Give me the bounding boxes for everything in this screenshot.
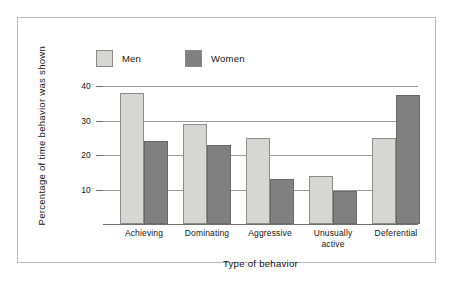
bar-men-achieving[interactable]	[120, 93, 144, 224]
tick-mark-40	[96, 86, 103, 87]
bar-women-deferential[interactable]	[396, 95, 420, 224]
bar-women-aggressive[interactable]	[270, 179, 294, 224]
tick-mark-10	[96, 190, 103, 191]
tick-mark-30	[96, 121, 103, 122]
bar-men-dominating[interactable]	[183, 124, 207, 224]
figure: Men Women Percentage of time behavior wa…	[0, 0, 456, 281]
bar-group-dominating	[183, 86, 231, 224]
legend-swatch-men-icon	[96, 50, 113, 67]
x-axis-baseline	[103, 224, 418, 225]
tick-label-20: 20	[67, 150, 91, 160]
tick-mark-20	[96, 155, 103, 156]
category-label-deferential-line1: Deferential	[356, 228, 436, 239]
tick-label-40: 40	[67, 81, 91, 91]
bar-men-deferential[interactable]	[372, 138, 396, 224]
legend-label-men: Men	[122, 53, 141, 64]
y-axis-title: Percentage of time behavior was shown	[36, 56, 47, 226]
bar-group-achieving	[120, 86, 168, 224]
category-label-deferential: Deferential	[356, 228, 436, 239]
bar-group-unusually-active	[309, 86, 357, 224]
legend-entry-men: Men	[96, 50, 141, 67]
bar-group-deferential	[372, 86, 420, 224]
bar-women-unusually-active[interactable]	[333, 191, 357, 224]
bar-series-container	[103, 86, 418, 224]
category-labels: Achieving Dominating Aggressive Unusuall…	[103, 228, 418, 254]
bar-men-unusually-active[interactable]	[309, 176, 333, 224]
bar-women-dominating[interactable]	[207, 145, 231, 224]
legend-swatch-women-icon	[185, 50, 202, 67]
bar-men-aggressive[interactable]	[246, 138, 270, 224]
tick-label-30: 30	[67, 116, 91, 126]
category-label-unusually-active-line2: active	[293, 239, 373, 250]
legend-label-women: Women	[211, 53, 245, 64]
legend-entry-women: Women	[185, 50, 245, 67]
tick-label-10: 10	[67, 185, 91, 195]
x-axis-title: Type of behavior	[103, 258, 418, 269]
chart-frame: Men Women Percentage of time behavior wa…	[17, 17, 436, 263]
bar-women-achieving[interactable]	[144, 141, 168, 224]
chart-legend: Men Women	[96, 49, 245, 67]
bar-group-aggressive	[246, 86, 294, 224]
